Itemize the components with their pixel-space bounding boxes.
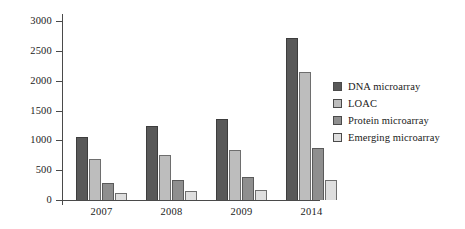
x-axis-label-2014: 2014 <box>277 206 347 218</box>
y-axis-tick-label: 0 <box>4 195 52 205</box>
legend-item[interactable]: LOAC <box>333 95 463 112</box>
legend-item[interactable]: Protein microarray <box>333 112 463 129</box>
legend-item[interactable]: DNA microarray <box>333 78 463 95</box>
y-axis-tick <box>56 111 63 112</box>
y-axis-tick-label-wrap: 500 <box>0 165 52 175</box>
legend-label: LOAC <box>348 98 377 110</box>
y-axis-tick-label: 3000 <box>4 16 52 26</box>
legend-label: DNA microarray <box>348 81 420 93</box>
y-axis-tick-label-wrap: 1500 <box>0 106 52 116</box>
bar <box>255 190 267 200</box>
bar <box>229 150 241 200</box>
x-axis-label-2009: 2009 <box>207 206 277 218</box>
bar <box>325 180 337 200</box>
bar <box>146 126 158 200</box>
y-axis-tick <box>56 21 63 22</box>
x-axis-line <box>62 200 320 201</box>
chart-legend: DNA microarrayLOACProtein microarrayEmer… <box>333 78 463 146</box>
legend-item[interactable]: Emerging microarray <box>333 129 463 146</box>
bar <box>185 191 197 200</box>
x-axis-label-2008: 2008 <box>137 206 207 218</box>
y-axis-line <box>62 14 63 201</box>
bar <box>172 180 184 200</box>
y-axis-tick-label-wrap: 1000 <box>0 135 52 145</box>
y-axis-tick-label-wrap: 2000 <box>0 76 52 86</box>
x-axis-label-2007: 2007 <box>67 206 137 218</box>
y-axis-tick-label-wrap: 2500 <box>0 46 52 56</box>
bar <box>89 159 101 200</box>
bar <box>159 155 171 200</box>
legend-swatch-icon <box>333 99 342 108</box>
bar <box>216 119 228 200</box>
bar <box>115 193 127 200</box>
y-axis-tick <box>56 170 63 171</box>
y-axis-tick-label: 2500 <box>4 46 52 56</box>
bar-group <box>286 21 337 200</box>
y-axis-tick-label: 2000 <box>4 76 52 86</box>
y-axis-tick <box>56 81 63 82</box>
legend-label: Protein microarray <box>348 115 429 127</box>
y-axis-tick <box>56 140 63 141</box>
bar-group <box>216 21 267 200</box>
legend-swatch-icon <box>333 133 342 142</box>
bar <box>286 38 298 200</box>
y-axis-tick-label: 1500 <box>4 106 52 116</box>
bar <box>312 148 324 201</box>
plot-area: 300025002000150010005000 200720082009201… <box>0 0 330 229</box>
bar <box>76 137 88 200</box>
y-axis-tick-label-wrap: 3000 <box>0 16 52 26</box>
legend-swatch-icon <box>333 116 342 125</box>
legend-swatch-icon <box>333 82 342 91</box>
bar <box>299 72 311 200</box>
bar <box>242 177 254 200</box>
bar-group <box>146 21 197 200</box>
bar-chart: 300025002000150010005000 200720082009201… <box>0 0 465 229</box>
y-axis-tick <box>56 51 63 52</box>
y-axis-tick-label: 500 <box>4 165 52 175</box>
y-axis-tick <box>56 200 63 201</box>
legend-label: Emerging microarray <box>348 132 440 144</box>
y-axis-tick-label: 1000 <box>4 135 52 145</box>
bar <box>102 183 114 200</box>
bar-group <box>76 21 127 200</box>
y-axis-tick-label-wrap: 0 <box>0 195 52 205</box>
